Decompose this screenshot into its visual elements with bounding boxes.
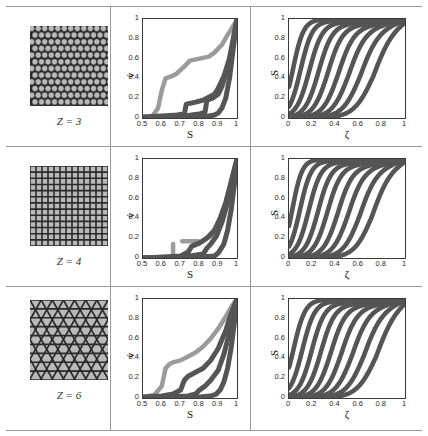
ytick-label: 0.6 [120, 333, 139, 342]
xtick-label: 0.8 [369, 119, 393, 128]
ytick-label: 0.8 [120, 313, 139, 322]
z-label-row2: Z = 4 [0, 255, 138, 267]
lattice-z6 [30, 300, 108, 380]
xtick-label: 0.4 [322, 399, 346, 408]
ytick-label: 0.2 [120, 372, 139, 381]
ytick-label: 1 [120, 153, 139, 162]
ytick-label: 0.6 [120, 53, 139, 62]
ytick-label: 0.8 [266, 173, 285, 182]
ytick-label: 0.8 [266, 33, 285, 42]
ytick-label: 0 [266, 112, 285, 121]
xtick-label: 1 [392, 259, 416, 268]
xtick-label: 0.8 [369, 259, 393, 268]
grid-vline-1 [110, 6, 111, 430]
xtick-label: 1 [392, 119, 416, 128]
ytick-label: 0.4 [120, 352, 139, 361]
grid-hline-2 [6, 286, 422, 287]
ytick-label: 0.6 [266, 333, 285, 342]
axes-mid-z4 [142, 158, 238, 259]
xtick-label: 1 [224, 259, 248, 268]
ytick-label: 0 [120, 112, 139, 121]
xtick-label: 0.8 [369, 399, 393, 408]
lattice-z4 [30, 166, 108, 246]
lattice-image-square [30, 166, 108, 246]
xlabel-right-z4: ζ [288, 268, 406, 280]
ytick-label: 1 [120, 293, 139, 302]
ytick-label: 0.2 [266, 92, 285, 101]
ytick-label: 0.4 [266, 212, 285, 221]
grid-hline-top [6, 6, 422, 7]
ytick-label: 1 [120, 13, 139, 22]
xtick-label: 0.4 [322, 259, 346, 268]
xtick-label: 0.2 [299, 399, 323, 408]
ytick-label: 1 [266, 153, 285, 162]
lattice-image-honeycomb [30, 26, 108, 106]
grid-hline-bot [6, 430, 422, 431]
grid-hline-1 [6, 146, 422, 147]
axes-mid-z3 [142, 18, 238, 119]
axes-right-z6 [288, 298, 406, 399]
xtick-label: 1 [392, 399, 416, 408]
ytick-label: 0.2 [266, 372, 285, 381]
ytick-label: 0.4 [266, 352, 285, 361]
lattice-z3 [30, 26, 108, 106]
ytick-label: 0.2 [266, 232, 285, 241]
xtick-label: 1 [224, 119, 248, 128]
ytick-label: 0 [120, 252, 139, 261]
figure-root: Z = 3 v̇ S 0.50.60.70.80.9100.20.40.60.8… [0, 0, 428, 436]
ytick-label: 0.6 [266, 53, 285, 62]
ytick-label: 0.2 [120, 92, 139, 101]
xtick-label: 0.6 [346, 259, 370, 268]
ytick-label: 0.4 [120, 212, 139, 221]
ytick-label: 0 [266, 252, 285, 261]
ytick-label: 0.4 [266, 72, 285, 81]
xtick-label: 0.6 [346, 119, 370, 128]
axes-mid-z6 [142, 298, 238, 399]
ytick-label: 0.6 [266, 193, 285, 202]
xtick-label: 1 [224, 399, 248, 408]
xtick-label: 0.2 [299, 259, 323, 268]
xtick-label: 0.2 [299, 119, 323, 128]
ytick-label: 0.6 [120, 193, 139, 202]
z-label-row1: Z = 3 [0, 115, 138, 127]
ytick-label: 0 [266, 392, 285, 401]
grid-vline-2 [250, 6, 251, 430]
xlabel-right-z3: ζ [288, 128, 406, 140]
xtick-label: 0.6 [346, 399, 370, 408]
xlabel-right-z6: ζ [288, 408, 406, 420]
lattice-image-triangular [30, 300, 108, 380]
ytick-label: 0.8 [266, 313, 285, 322]
ytick-label: 1 [266, 293, 285, 302]
xlabel-mid-z3: S [142, 128, 238, 140]
axes-right-z4 [288, 158, 406, 259]
ytick-label: 0.8 [120, 33, 139, 42]
xlabel-mid-z6: S [142, 408, 238, 420]
xlabel-mid-z4: S [142, 268, 238, 280]
ytick-label: 0.2 [120, 232, 139, 241]
ytick-label: 0.4 [120, 72, 139, 81]
xtick-label: 0.4 [322, 119, 346, 128]
ytick-label: 0.8 [120, 173, 139, 182]
ytick-label: 1 [266, 13, 285, 22]
z-label-row3: Z = 6 [0, 389, 138, 401]
ytick-label: 0 [120, 392, 139, 401]
axes-right-z3 [288, 18, 406, 119]
